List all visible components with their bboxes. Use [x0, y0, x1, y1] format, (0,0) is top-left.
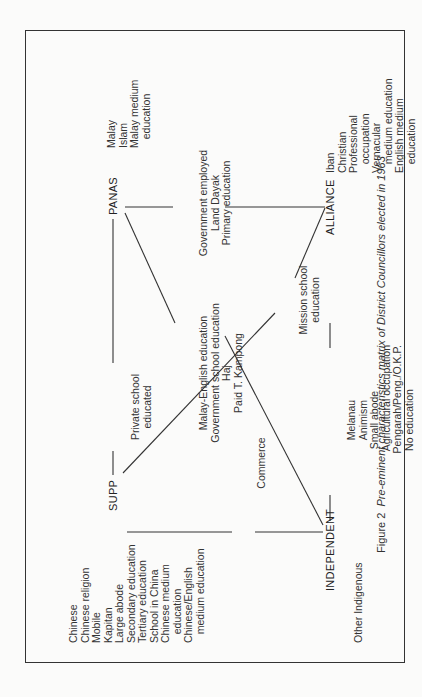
- caption-text: Pre-eminent characteristics matrix of Di…: [375, 156, 387, 506]
- node-supp: SUPP: [107, 480, 119, 511]
- supp-characteristics: ChineseChinese religionMobileKapitanLarg…: [45, 544, 229, 643]
- figure-caption: Figure 2 Pre-eminent characteristics mat…: [375, 156, 387, 553]
- node-panas: PANAS: [107, 177, 119, 215]
- link-panas-independent: Malay-English educationGovernment school…: [175, 293, 267, 453]
- figure-2-matrix: PANAS SUPP INDEPENDENT ALLIANCE MalayIsl…: [25, 30, 405, 663]
- caption-label: Figure 2: [375, 513, 387, 553]
- link-supp-panas: Private schooleducated: [107, 365, 176, 449]
- link-independent-alliance: MelanauAnimismSmall abodeAgricultural oc…: [323, 345, 422, 495]
- independent-characteristics: Other Indigenous: [330, 562, 388, 643]
- link-panas-alliance: Government employedLand DayakPrimary edu…: [175, 143, 256, 263]
- node-alliance: ALLIANCE: [324, 179, 336, 235]
- alliance-characteristics: IbanChristianProfessional occupationVern…: [302, 78, 422, 173]
- panas-characteristics: MalayIslamMalay medium education: [83, 80, 175, 148]
- link-supp-alliance: Mission schooleducation: [275, 255, 344, 345]
